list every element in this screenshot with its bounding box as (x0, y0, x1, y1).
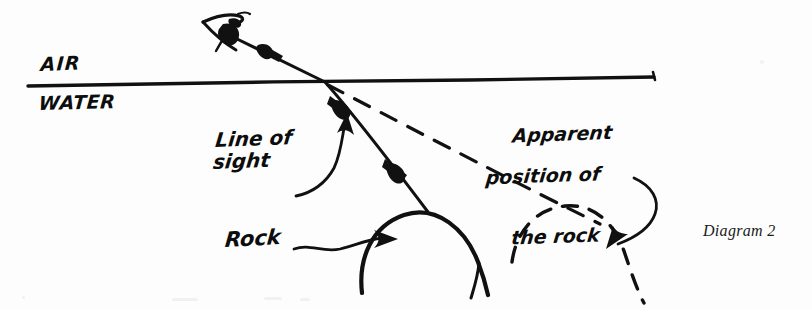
scan-speck (172, 298, 198, 301)
label-line-of-sight: Line ofsight (212, 127, 293, 173)
water-surface-line (28, 72, 655, 86)
label-water: WATER (38, 91, 116, 113)
refraction-diagram: .ink { fill: none; stroke: #111111; stro… (0, 0, 812, 309)
incident-ray (233, 37, 325, 82)
line-of-sight-leader-arrow (296, 113, 354, 196)
eye-icon (203, 13, 250, 52)
sketch-canvas: .ink { fill: none; stroke: #111111; stro… (0, 0, 812, 309)
label-air: AIR (40, 52, 81, 74)
scan-speck (760, 60, 764, 64)
label-apparent-line2: position of (485, 163, 609, 188)
label-apparent-line3: the rock (510, 224, 602, 248)
label-apparent-line1: Apparent (512, 120, 614, 146)
rock-arc (361, 212, 488, 298)
scan-speck (22, 296, 25, 299)
rock-leader-arrow (294, 230, 398, 250)
scan-speck (300, 298, 310, 301)
apparent-rock-leader-arrow (606, 178, 656, 249)
label-rock: Rock (224, 226, 282, 252)
label-line-of-sight-line2: sight (212, 148, 271, 174)
label-apparent-position: Apparent position of the rock (470, 101, 615, 291)
diagram-caption: Diagram 2 (703, 222, 775, 240)
scan-speck (264, 297, 282, 300)
